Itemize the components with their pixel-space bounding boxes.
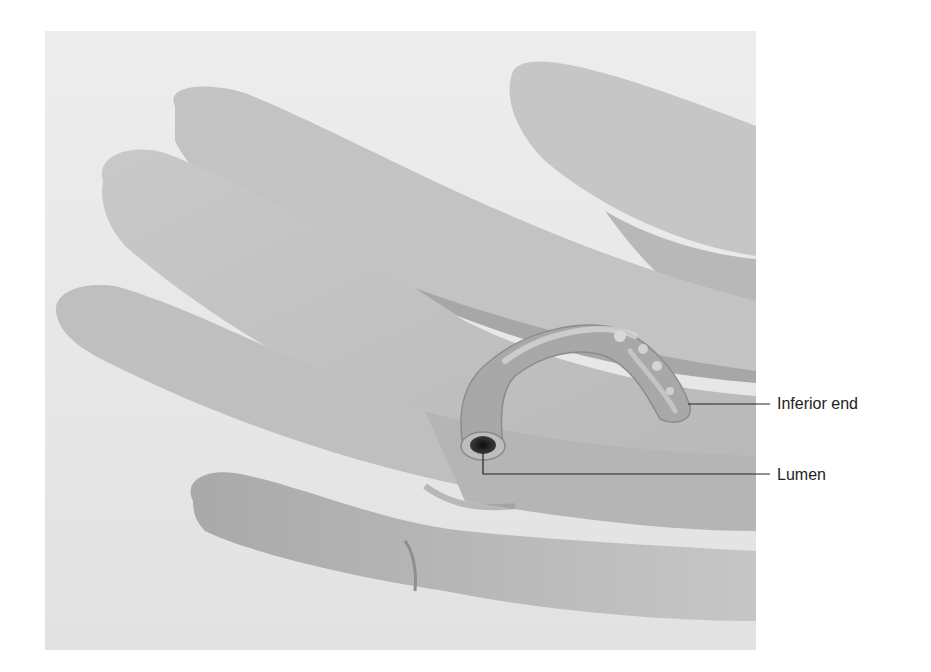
label-lumen: Lumen — [777, 466, 826, 484]
photo-illustration — [45, 31, 756, 650]
label-inferior-end: Inferior end — [777, 395, 858, 413]
specimen-photo — [45, 31, 756, 650]
lumen-opening — [470, 436, 496, 454]
